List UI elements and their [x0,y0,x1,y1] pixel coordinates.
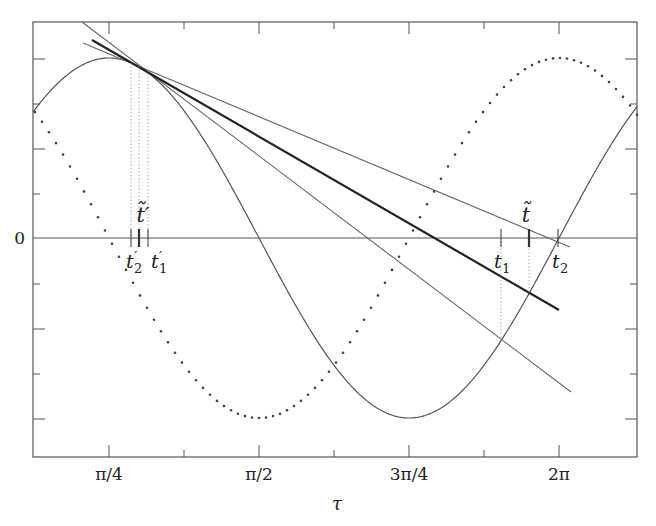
plot-frame [33,22,637,457]
label-t-tilde: t̃ [522,200,532,227]
x-tick-label-pi-4: π/4 [95,464,123,484]
svg-text:1: 1 [159,261,167,276]
x-ticks [109,22,559,457]
svg-text:t: t [126,250,134,272]
label-t1-prime: t ′ 1 [151,249,167,276]
x-tick-label-3pi-4: 3π/4 [390,464,429,484]
svg-text:1: 1 [502,261,510,276]
x-axis-label: τ [332,493,343,514]
svg-text:2: 2 [560,261,568,276]
y-zero-label: 0 [14,228,25,248]
y-ticks [33,59,637,419]
label-t2: t 2 [552,250,568,276]
right-guide-lines [501,238,529,338]
svg-text:t: t [494,250,502,272]
svg-text:t: t [552,250,560,272]
tangent-shallow-line [83,43,570,247]
x-tick-label-2pi: 2π [548,464,570,484]
label-t-tilde-prime: t̃′ [136,200,149,227]
svg-text:2: 2 [134,261,142,276]
x-tick-label-pi-2: π/2 [245,464,273,484]
label-t2-prime: t ′ 2 [126,249,142,276]
label-t1: t 1 [494,250,510,276]
chart-canvas: 0 π/4 π/2 3π/4 2π τ t̃′ t ′ 2 t ′ 1 t̃ t… [0,0,656,526]
svg-text:t: t [151,250,159,272]
